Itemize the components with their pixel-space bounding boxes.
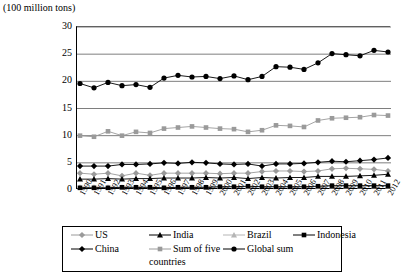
data-point bbox=[161, 160, 167, 166]
y-tick-0: 0 bbox=[46, 184, 72, 194]
legend-marker-icon bbox=[149, 230, 171, 240]
legend-label: Global sum bbox=[247, 243, 293, 254]
legend-continuation-label: countries bbox=[149, 256, 186, 267]
data-point bbox=[386, 113, 391, 118]
legend-marker-icon bbox=[71, 230, 93, 240]
data-point bbox=[385, 155, 391, 161]
data-point bbox=[385, 49, 390, 54]
data-point bbox=[231, 246, 236, 251]
y-tick-5: 5 bbox=[46, 157, 72, 167]
legend-marker-icon bbox=[71, 244, 93, 254]
data-point bbox=[329, 51, 334, 56]
data-point bbox=[77, 170, 83, 176]
data-point bbox=[273, 64, 278, 69]
data-point bbox=[231, 73, 236, 78]
y-tick-15: 15 bbox=[46, 103, 72, 113]
legend-label: US bbox=[95, 229, 108, 240]
data-point bbox=[133, 170, 139, 176]
data-point bbox=[134, 130, 139, 135]
data-point bbox=[120, 133, 125, 138]
series-sum-of-five-countries bbox=[78, 113, 391, 139]
data-point bbox=[79, 246, 85, 252]
data-point bbox=[232, 127, 237, 132]
data-point bbox=[344, 115, 349, 120]
data-point bbox=[315, 168, 321, 174]
data-point bbox=[91, 163, 97, 169]
data-point bbox=[148, 131, 153, 136]
legend-item-us[interactable]: US bbox=[71, 228, 108, 240]
series-line bbox=[80, 115, 388, 137]
data-point bbox=[189, 159, 195, 165]
data-point bbox=[329, 158, 335, 164]
data-point bbox=[190, 124, 195, 129]
data-point bbox=[259, 168, 265, 174]
data-point bbox=[259, 163, 265, 169]
data-point bbox=[161, 75, 166, 80]
data-point bbox=[329, 166, 335, 172]
legend-marker-icon bbox=[223, 230, 245, 240]
data-point bbox=[245, 77, 250, 82]
data-point bbox=[274, 123, 279, 128]
data-point bbox=[78, 133, 83, 138]
y-tick-25: 25 bbox=[46, 48, 72, 58]
data-point bbox=[189, 74, 194, 79]
data-point bbox=[77, 163, 83, 169]
legend-marker-icon bbox=[149, 244, 171, 254]
data-point bbox=[133, 82, 138, 87]
data-point bbox=[357, 166, 363, 172]
axis-unit-label: (100 million tons) bbox=[3, 2, 75, 13]
y-tick-20: 20 bbox=[46, 75, 72, 85]
legend-item-indonesia[interactable]: Indonesia bbox=[293, 228, 356, 240]
y-tick-30: 30 bbox=[46, 21, 72, 31]
legend-label: Sum of five bbox=[173, 243, 220, 254]
data-point bbox=[77, 81, 82, 86]
data-point bbox=[105, 80, 110, 85]
legend-label: Brazil bbox=[247, 229, 271, 240]
data-point bbox=[91, 85, 96, 90]
data-point bbox=[372, 113, 377, 118]
data-point bbox=[175, 73, 180, 78]
legend-item-china[interactable]: China bbox=[71, 242, 119, 254]
legend-item-sum-of-five-countries[interactable]: Sum of five bbox=[149, 242, 220, 254]
data-point bbox=[106, 129, 111, 134]
data-point bbox=[92, 134, 97, 139]
data-point bbox=[302, 232, 307, 237]
plot-area bbox=[76, 26, 390, 189]
data-point bbox=[105, 170, 111, 176]
legend-marker-icon bbox=[293, 230, 315, 240]
data-point bbox=[316, 118, 321, 123]
legend-item-india[interactable]: India bbox=[149, 228, 194, 240]
data-point bbox=[315, 159, 321, 165]
data-point bbox=[147, 161, 153, 167]
series-line bbox=[80, 50, 388, 87]
legend-item-global-sum[interactable]: Global sum bbox=[223, 242, 293, 254]
data-point bbox=[246, 130, 251, 135]
data-point bbox=[287, 161, 293, 167]
legend-label: China bbox=[95, 243, 119, 254]
legend-label: Indonesia bbox=[317, 229, 356, 240]
data-point bbox=[301, 168, 307, 174]
data-point bbox=[288, 124, 293, 129]
y-tick-10: 10 bbox=[46, 130, 72, 140]
chart-figure: (100 million tons) 051015202530 19901991… bbox=[0, 0, 404, 278]
data-point bbox=[273, 161, 279, 167]
data-point bbox=[259, 74, 264, 79]
data-point bbox=[245, 170, 251, 176]
y-axis-tick-labels: 051015202530 bbox=[44, 26, 72, 189]
data-point bbox=[133, 161, 139, 167]
data-point bbox=[371, 156, 377, 162]
data-point bbox=[217, 161, 223, 167]
data-point bbox=[204, 125, 209, 130]
data-point bbox=[287, 168, 293, 174]
data-point bbox=[371, 48, 376, 53]
series-global-sum bbox=[77, 48, 390, 91]
data-point bbox=[343, 165, 349, 171]
data-point bbox=[217, 76, 222, 81]
data-point bbox=[119, 83, 124, 88]
data-point bbox=[162, 126, 167, 131]
legend-item-brazil[interactable]: Brazil bbox=[223, 228, 271, 240]
legend-label: India bbox=[173, 229, 194, 240]
data-point bbox=[273, 168, 279, 174]
data-point bbox=[245, 161, 251, 167]
series-layer bbox=[77, 27, 391, 190]
